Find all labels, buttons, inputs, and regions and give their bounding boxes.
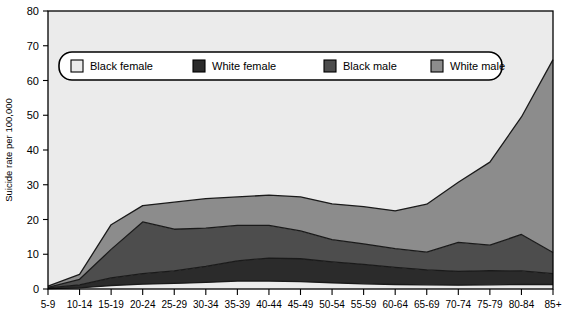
legend-swatch-white-female xyxy=(193,60,205,72)
legend-label-black-male: Black male xyxy=(343,60,397,72)
legend-swatch-white-male xyxy=(431,60,443,72)
y-tick-label: 80 xyxy=(27,5,39,17)
x-tick-label: 40-44 xyxy=(256,299,282,310)
y-tick-label: 20 xyxy=(27,214,39,226)
x-tick-label: 10-14 xyxy=(67,299,93,310)
legend-label-white-female: White female xyxy=(212,60,276,72)
y-tick-label: 70 xyxy=(27,40,39,52)
x-tick-label: 80-84 xyxy=(509,299,535,310)
y-tick-label: 10 xyxy=(27,248,39,260)
y-tick-label: 0 xyxy=(33,283,39,295)
legend-swatch-black-female xyxy=(71,60,83,72)
chart-figure: 01020304050607080Suicide rate per 100,00… xyxy=(0,0,566,321)
legend-swatch-black-male xyxy=(324,60,336,72)
x-tick-label: 60-64 xyxy=(382,299,408,310)
x-tick-label: 70-74 xyxy=(446,299,472,310)
x-tick-label: 30-34 xyxy=(193,299,219,310)
x-tick-label: 5-9 xyxy=(41,299,56,310)
x-tick-label: 15-19 xyxy=(98,299,124,310)
y-tick-label: 50 xyxy=(27,109,39,121)
x-tick-label: 25-29 xyxy=(161,299,187,310)
x-tick-label: 50-54 xyxy=(319,299,345,310)
x-tick-label: 20-24 xyxy=(130,299,156,310)
x-tick-label: 75-79 xyxy=(477,299,503,310)
x-tick-label: 85+ xyxy=(545,299,562,310)
legend: Black femaleWhite femaleBlack maleWhite … xyxy=(59,52,505,80)
x-tick-label: 55-59 xyxy=(351,299,377,310)
y-axis-title: Suicide rate per 100,000 xyxy=(3,98,14,202)
x-tick-label: 45-49 xyxy=(288,299,314,310)
y-tick-label: 30 xyxy=(27,179,39,191)
y-tick-label: 40 xyxy=(27,144,39,156)
stacked-area-chart: 01020304050607080Suicide rate per 100,00… xyxy=(0,0,566,321)
y-tick-label: 60 xyxy=(27,75,39,87)
x-tick-label: 65-69 xyxy=(414,299,440,310)
legend-label-white-male: White male xyxy=(450,60,505,72)
x-tick-label: 35-39 xyxy=(225,299,251,310)
legend-label-black-female: Black female xyxy=(90,60,153,72)
